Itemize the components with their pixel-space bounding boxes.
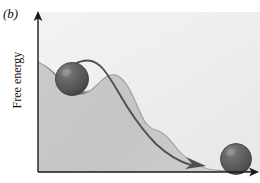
ball-in-global-minimum (221, 144, 252, 175)
ball-in-metastable-well (56, 63, 89, 96)
y-axis-label: Free energy (11, 35, 23, 125)
panel-label: (b) (3, 7, 18, 20)
figure-canvas (0, 0, 260, 183)
free-energy-landscape-figure: (b) Free energy (0, 0, 260, 183)
